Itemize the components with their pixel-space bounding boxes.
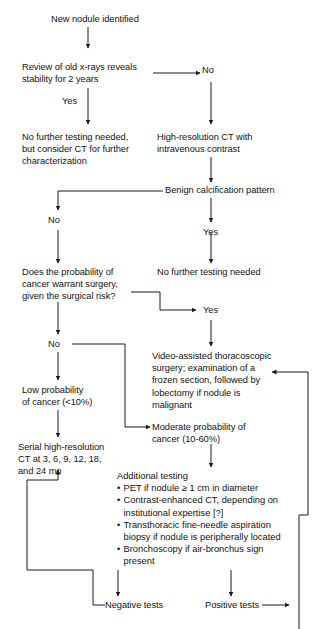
edge-label-calcification-no: No	[48, 214, 60, 226]
node-low-probability: Low probability of cancer (<10%)	[22, 384, 92, 408]
node-benign-calcification: Benign calcification pattern	[165, 184, 275, 196]
node-vats: Video-assisted thoracoscopic surgery; ex…	[152, 350, 271, 411]
node-probability-surgery: Does the probability of cancer warrant s…	[22, 266, 118, 303]
additional-testing-item: Contrast-enhanced CT, depending on insti…	[117, 494, 317, 518]
edge-calcification-to-no	[58, 191, 163, 210]
additional-testing-block: Additional testing PET if nodule ≥ 1 cm …	[117, 470, 317, 568]
edge-probability-to-yes	[131, 292, 196, 310]
additional-testing-item: Bronchoscopy if air-bronchus sign presen…	[117, 543, 317, 567]
edge-label-xrays-yes: Yes	[62, 95, 77, 107]
edge-label-xrays-no: No	[202, 64, 214, 76]
additional-testing-heading: Additional testing	[117, 470, 317, 482]
node-moderate-probability: Moderate probability of cancer (10-60%)	[152, 421, 245, 445]
additional-testing-item: Transthoracic fine-needle aspiration bio…	[117, 519, 317, 543]
additional-testing-item: PET if nodule ≥ 1 cm in diameter	[117, 482, 317, 494]
node-no-further-testing-1: No further testing needed, but consider …	[22, 131, 129, 168]
node-no-further-testing-2: No further testing needed	[157, 266, 261, 278]
node-new-nodule: New nodule identified	[51, 13, 139, 25]
flowchart-diagram: New nodule identified Review of old x-ra…	[0, 0, 324, 629]
node-negative-tests: Negative tests	[105, 599, 163, 611]
edge-label-surgery-yes: Yes	[203, 304, 218, 316]
node-high-resolution-ct: High-resolution CT with intravenous cont…	[157, 131, 252, 155]
node-serial-ct: Serial high-resolution CT at 3, 6, 9, 12…	[18, 441, 104, 478]
edge-label-surgery-no: No	[48, 338, 60, 350]
node-review-xrays: Review of old x-rays reveals stability f…	[22, 61, 137, 85]
edge-label-calcification-yes: Yes	[203, 226, 218, 238]
edge-negative-feedback-to-serialct	[27, 470, 105, 605]
node-positive-tests: Positive tests	[205, 599, 259, 611]
